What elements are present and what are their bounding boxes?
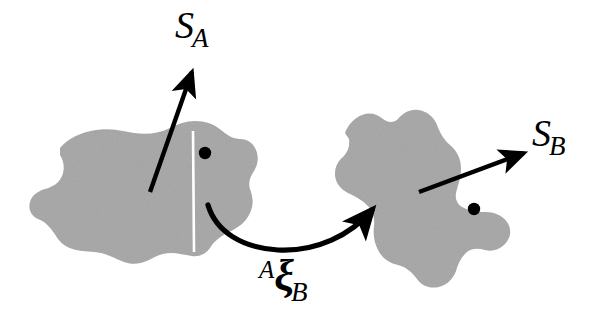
body-A-blob <box>29 121 257 264</box>
label-surface-a: SA <box>175 6 211 44</box>
body-A-marker-dot <box>199 147 211 159</box>
label-surface-b: SB <box>532 114 568 152</box>
label-transform: AξB <box>259 248 311 292</box>
figure-canvas: SA SB AξB <box>0 0 613 332</box>
body-A-group <box>29 121 257 264</box>
label-transform-presuperscript: A <box>259 256 274 283</box>
label-surface-b-sub: B <box>549 131 566 161</box>
label-transform-sub: B <box>291 277 308 307</box>
body-B-blob <box>335 110 510 288</box>
label-surface-a-sub: A <box>192 23 209 53</box>
body-B-group <box>335 110 510 288</box>
body-A-cut-line <box>193 131 194 252</box>
body-B-marker-dot <box>468 203 480 215</box>
